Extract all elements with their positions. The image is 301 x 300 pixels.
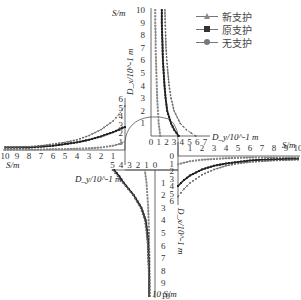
data-point-marker bbox=[163, 72, 165, 74]
data-point-marker bbox=[210, 158, 212, 160]
tick-label: 4 bbox=[161, 215, 166, 225]
data-point-marker bbox=[115, 144, 117, 146]
data-point-marker bbox=[37, 145, 39, 147]
data-point-marker bbox=[161, 41, 163, 43]
data-point-marker bbox=[155, 59, 157, 61]
data-point-marker bbox=[189, 175, 191, 177]
data-point-marker bbox=[55, 143, 57, 145]
data-point-marker bbox=[165, 97, 167, 99]
data-point-marker bbox=[148, 273, 150, 275]
data-point-marker bbox=[258, 161, 260, 163]
data-point-marker bbox=[76, 139, 78, 141]
tick-label: 7 bbox=[161, 253, 166, 263]
data-point-marker bbox=[67, 141, 69, 143]
data-point-marker bbox=[157, 113, 159, 115]
data-point-marker bbox=[146, 235, 148, 237]
data-point-marker bbox=[162, 50, 164, 52]
data-point-marker bbox=[228, 162, 230, 164]
data-point-marker bbox=[155, 66, 157, 68]
data-point-marker bbox=[166, 60, 168, 62]
data-point-marker bbox=[161, 28, 163, 30]
data-point-marker bbox=[88, 139, 90, 141]
data-point-marker bbox=[249, 161, 251, 163]
data-point-marker bbox=[170, 122, 172, 124]
data-point-marker bbox=[147, 260, 149, 262]
data-point-marker bbox=[144, 169, 146, 171]
data-point-marker bbox=[258, 157, 260, 159]
data-point-marker bbox=[164, 88, 166, 90]
tick-label: 9 bbox=[141, 18, 146, 28]
data-point-marker bbox=[154, 28, 156, 30]
data-point-marker bbox=[100, 129, 102, 131]
data-point-marker bbox=[172, 107, 174, 109]
tick-label: 2 bbox=[99, 151, 104, 161]
data-point-marker bbox=[143, 216, 145, 218]
data-point-marker bbox=[165, 104, 167, 106]
data-point-marker bbox=[147, 210, 149, 212]
data-point-marker bbox=[163, 78, 165, 80]
tick-label: 9 bbox=[161, 278, 166, 288]
data-point-marker bbox=[240, 157, 242, 159]
data-point-marker bbox=[147, 251, 149, 253]
data-point-marker bbox=[85, 139, 87, 141]
data-point-marker bbox=[213, 165, 215, 167]
data-point-marker bbox=[162, 63, 164, 65]
data-point-marker bbox=[175, 113, 177, 115]
data-point-marker bbox=[252, 157, 254, 159]
data-point-marker bbox=[43, 148, 45, 150]
data-point-marker bbox=[31, 149, 33, 151]
data-point-marker bbox=[103, 146, 105, 148]
data-point-marker bbox=[49, 148, 51, 150]
data-point-marker bbox=[13, 146, 15, 148]
data-point-marker bbox=[195, 172, 197, 174]
data-point-marker bbox=[148, 286, 150, 288]
data-point-marker bbox=[82, 137, 84, 139]
triangle-marker-icon bbox=[204, 13, 210, 19]
data-point-marker bbox=[136, 201, 138, 203]
data-point-marker bbox=[155, 72, 157, 74]
data-point-marker bbox=[112, 169, 114, 171]
data-point-marker bbox=[154, 9, 156, 11]
data-point-marker bbox=[148, 283, 150, 285]
tick-label: 8 bbox=[141, 30, 146, 40]
data-point-marker bbox=[158, 126, 160, 128]
data-point-marker bbox=[148, 264, 150, 266]
data-point-marker bbox=[52, 148, 54, 150]
data-point-marker bbox=[124, 185, 126, 187]
data-point-marker bbox=[82, 148, 84, 150]
left-d-axis-label: D_x/10^-1 m bbox=[125, 48, 135, 96]
data-point-marker bbox=[216, 158, 218, 160]
data-point-marker bbox=[19, 146, 21, 148]
data-point-marker bbox=[261, 160, 263, 162]
data-point-marker bbox=[118, 143, 120, 145]
data-point-marker bbox=[157, 107, 159, 109]
data-point-marker bbox=[276, 160, 278, 162]
data-point-marker bbox=[156, 88, 158, 90]
data-point-marker bbox=[146, 188, 148, 190]
data-point-marker bbox=[79, 138, 81, 140]
data-point-marker bbox=[161, 31, 163, 33]
data-point-marker bbox=[146, 232, 148, 234]
data-point-marker bbox=[264, 157, 266, 159]
data-point-marker bbox=[204, 168, 206, 170]
data-point-marker bbox=[213, 169, 215, 171]
data-point-marker bbox=[170, 94, 172, 96]
data-point-marker bbox=[288, 159, 290, 161]
legend-line bbox=[196, 16, 218, 17]
data-point-marker bbox=[186, 185, 188, 187]
legend: 新支护 原支护 无支护 bbox=[196, 10, 252, 49]
data-point-marker bbox=[219, 158, 221, 160]
data-point-marker bbox=[222, 166, 224, 168]
data-point-marker bbox=[210, 170, 212, 172]
data-point-marker bbox=[156, 81, 158, 83]
tick-label: 8 bbox=[27, 151, 32, 161]
data-point-marker bbox=[64, 141, 66, 143]
tick-label: 1 bbox=[188, 143, 193, 153]
data-point-marker bbox=[169, 91, 171, 93]
data-point-marker bbox=[100, 135, 102, 137]
data-point-marker bbox=[145, 178, 147, 180]
data-point-marker bbox=[167, 72, 169, 74]
data-point-marker bbox=[155, 37, 157, 39]
data-point-marker bbox=[234, 163, 236, 165]
data-point-marker bbox=[261, 157, 263, 159]
